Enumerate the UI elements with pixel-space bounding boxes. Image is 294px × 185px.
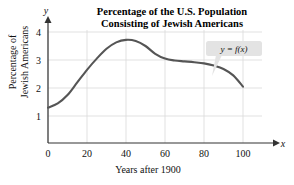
x-tick-label-80: 80 [199, 148, 209, 159]
y-tick-label-4: 4 [36, 27, 41, 38]
callout-label: y = f(x) [219, 44, 247, 54]
y-tick-label-3: 3 [36, 55, 41, 66]
x-tick-label-0: 0 [46, 148, 51, 159]
x-tick-label-20: 20 [82, 148, 92, 159]
x-tick-label-40: 40 [121, 148, 131, 159]
x-tick-label-100: 100 [236, 148, 251, 159]
x-tick-label-60: 60 [160, 148, 170, 159]
y-tick-label-2: 2 [36, 83, 41, 94]
x-axis-variable-name: x [280, 138, 286, 149]
chart-figure: Percentage of the U.S. Population Consis… [0, 0, 294, 185]
y-tick-label-1: 1 [36, 111, 41, 122]
plot-area: y x 1 2 3 4 0 20 40 60 80 100 y = f(x) [0, 0, 294, 185]
y-axis-variable-name: y [43, 5, 49, 16]
